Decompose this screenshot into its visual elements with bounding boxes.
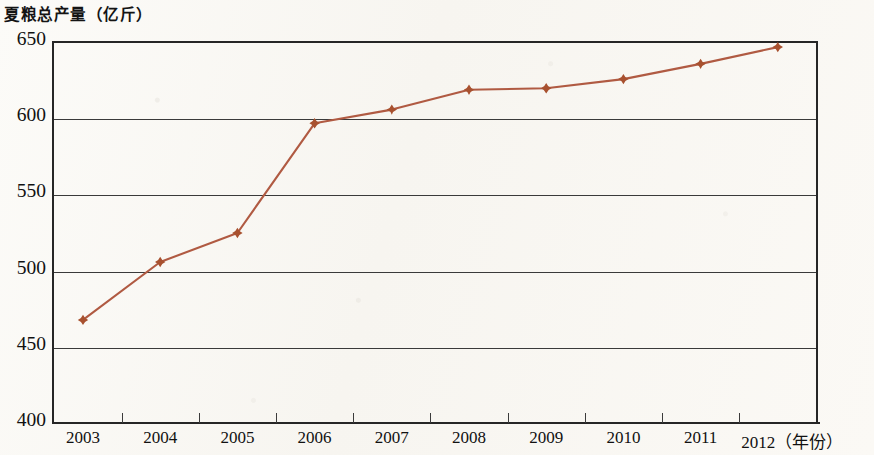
data-point-2008 bbox=[464, 85, 474, 95]
data-point-2009 bbox=[541, 83, 551, 93]
data-series-layer bbox=[0, 0, 874, 455]
series-line-summer-grain bbox=[83, 47, 778, 320]
series-markers bbox=[78, 42, 783, 325]
data-point-2010 bbox=[618, 74, 628, 84]
data-point-2012 bbox=[773, 42, 783, 52]
data-point-2011 bbox=[695, 59, 705, 69]
data-point-2007 bbox=[387, 104, 397, 114]
